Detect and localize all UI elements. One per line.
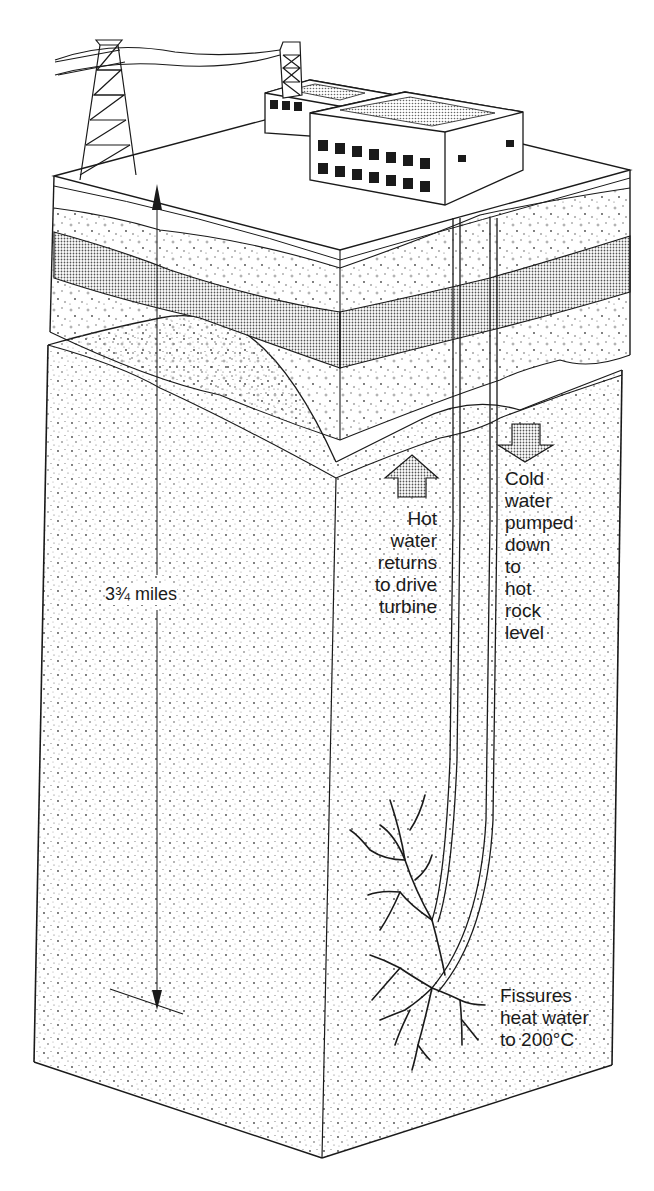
hot-water-label: Hot water returns to drive turbine xyxy=(327,508,437,618)
depth-label: 3¾ miles xyxy=(105,583,177,605)
fissures-label: Fissures heat water to 200°C xyxy=(500,985,589,1051)
cold-water-label: Cold water pumped down to hot rock level xyxy=(505,468,574,644)
